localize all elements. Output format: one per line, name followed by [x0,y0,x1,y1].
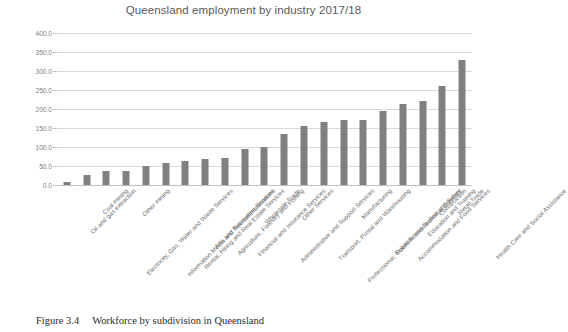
bar[interactable] [123,171,130,185]
bar[interactable] [439,86,446,185]
x-axis-labels: Oil and gas extractionCoal miningElectri… [57,185,472,303]
bar[interactable] [459,60,466,185]
y-axis-tick-label: 150.0 [35,125,52,132]
figure-caption: Figure 3.4Workforce by subdivision in Qu… [36,315,264,326]
bar-slot [294,33,314,185]
y-axis-tick-label: 0.0 [43,182,52,189]
bar-slot [452,33,472,185]
y-axis-tick-label: 50.0 [39,163,52,170]
caption-text: Workforce by subdivision in Queensland [92,315,264,326]
bar-slot [97,33,117,185]
bar[interactable] [261,147,268,185]
x-axis-tick-label: Rental, Hiring and Real Estate Services [202,187,285,270]
bar-slot [136,33,156,185]
bar[interactable] [419,101,426,185]
caption-number: Figure 3.4 [36,315,79,326]
y-axis-tick-label: 100.0 [35,144,52,151]
x-axis-tick-label: Other mining [141,187,171,217]
y-axis-tick-label: 200.0 [35,106,52,113]
bar[interactable] [301,126,308,185]
y-axis-tick-label: 350.0 [35,49,52,56]
bar[interactable] [103,171,110,185]
bar-slot [274,33,294,185]
bar-slot [413,33,433,185]
bar-slot [156,33,176,185]
bar[interactable] [202,159,209,185]
bar[interactable] [83,175,90,185]
bar[interactable] [320,122,327,185]
bar[interactable] [360,120,367,185]
x-axis-tick-label: Health Care and Social Assistance [494,187,567,260]
bar[interactable] [340,120,347,185]
bar-slot [57,33,77,185]
y-axis-tick-label: 300.0 [35,68,52,75]
x-axis-tick-label: Oil and gas extraction [89,187,137,235]
bar-slot [432,33,452,185]
y-axis: 400.0350.0300.0250.0200.0150.0100.050.00… [0,33,52,185]
bar-slot [393,33,413,185]
bar-slot [235,33,255,185]
bar-slot [195,33,215,185]
bar[interactable] [221,158,228,185]
bar-slot [255,33,275,185]
bar[interactable] [162,163,169,185]
chart-title: Queensland employment by industry 2017/1… [0,4,487,16]
bar-slot [77,33,97,185]
bar[interactable] [281,134,288,185]
bar[interactable] [399,104,406,185]
bar-slot [176,33,196,185]
bar-slot [334,33,354,185]
bar[interactable] [241,149,248,185]
plot-area [57,33,472,185]
bar[interactable] [380,111,387,185]
bar-slot [373,33,393,185]
y-axis-tick-label: 400.0 [35,30,52,37]
bar-slot [353,33,373,185]
bar[interactable] [182,161,189,185]
bar-slot [116,33,136,185]
bar-slot [314,33,334,185]
y-axis-tick-label: 250.0 [35,87,52,94]
bar-series [57,33,472,185]
bar-slot [215,33,235,185]
bar[interactable] [142,166,149,185]
